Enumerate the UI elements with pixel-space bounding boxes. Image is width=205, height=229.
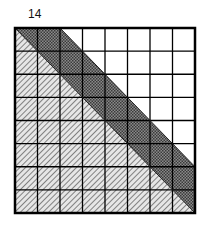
grid-diagram — [0, 0, 205, 229]
